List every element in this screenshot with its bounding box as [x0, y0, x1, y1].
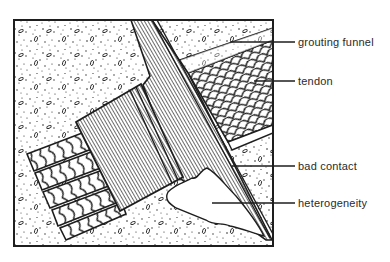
label-heterogeneity: heterogeneity: [298, 197, 367, 209]
label-grouting-funnel: grouting funnel: [298, 36, 374, 48]
label-bad-contact: bad contact: [298, 160, 357, 172]
label-tendon: tendon: [298, 75, 333, 87]
